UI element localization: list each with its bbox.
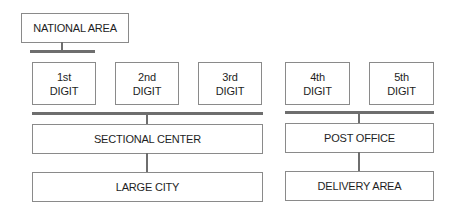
digit-3-label: 3rd DIGIT — [216, 70, 244, 98]
right-group-stem-top — [358, 113, 360, 123]
post-office-box: POST OFFICE — [285, 123, 434, 153]
national-area-label: NATIONAL AREA — [33, 21, 117, 35]
digit-5-box: 5th DIGIT — [369, 62, 434, 105]
left-group-stem-top — [146, 114, 148, 124]
digit-5-label: 5th DIGIT — [387, 70, 415, 98]
digit-4-box: 4th DIGIT — [285, 62, 350, 105]
digit-2-box: 2nd DIGIT — [115, 62, 179, 105]
large-city-label: LARGE CITY — [116, 180, 179, 194]
delivery-area-box: DELIVERY AREA — [285, 171, 434, 201]
sectional-center-label: SECTIONAL CENTER — [94, 132, 201, 146]
national-area-box: NATIONAL AREA — [21, 13, 129, 43]
delivery-area-label: DELIVERY AREA — [318, 179, 402, 193]
right-group-stem-bottom — [358, 152, 360, 171]
national-area-bar — [30, 50, 95, 53]
sectional-center-box: SECTIONAL CENTER — [32, 124, 263, 154]
left-group-stem-bottom — [146, 153, 148, 172]
digit-2-label: 2nd DIGIT — [133, 70, 161, 98]
digit-1-box: 1st DIGIT — [32, 62, 96, 105]
digit-1-label: 1st DIGIT — [50, 70, 78, 98]
digit-3-box: 3rd DIGIT — [198, 62, 262, 105]
post-office-label: POST OFFICE — [324, 131, 395, 145]
digit-4-label: 4th DIGIT — [303, 70, 331, 98]
large-city-box: LARGE CITY — [32, 172, 263, 202]
